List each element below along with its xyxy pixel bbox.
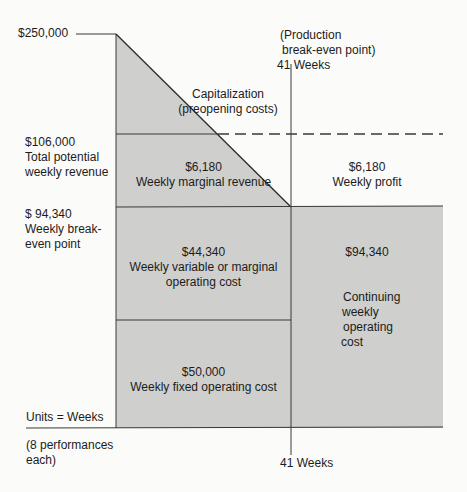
capitalization-label-2: (preopening costs) (150, 102, 306, 117)
weekly-profit-value: $6,180 (291, 160, 443, 175)
variable-cost-value: $44,340 (116, 245, 291, 260)
y-label-250000: $250,000 (18, 26, 68, 41)
continuing-cost-value: $94,340 (291, 245, 443, 260)
y-label-94340: $ 94,340 (25, 207, 72, 222)
performances-label-2: each) (26, 453, 56, 468)
y-label-revenue-1: Total potential (25, 150, 99, 165)
production-label-1: (Production (280, 28, 341, 43)
continuing-cost-label-2: weekly (342, 305, 379, 320)
variable-cost-label-1: Weekly variable or marginal (116, 260, 291, 275)
marginal-revenue-value: $6,180 (116, 160, 291, 175)
y-label-revenue-2: weekly revenue (25, 165, 108, 180)
units-label: Units = Weeks (26, 410, 103, 425)
continuing-cost-label-3: operating (343, 320, 393, 335)
weekly-profit-label: Weekly profit (291, 175, 443, 190)
y-label-106000: $106,000 (25, 135, 75, 150)
marginal-revenue-label: Weekly marginal revenue (116, 175, 291, 190)
production-label-2: break-even point) (282, 43, 375, 58)
production-label-3: 41 Weeks (277, 58, 330, 73)
continuing-cost-label-4: cost (341, 335, 363, 350)
performances-label-1: (8 performances (26, 438, 113, 453)
capitalization-label-1: Capitalization (150, 87, 306, 102)
y-label-breakeven-2: even point (25, 237, 80, 252)
bottom-41-weeks-label: 41 Weeks (280, 456, 333, 471)
fixed-cost-value: $50,000 (116, 365, 291, 380)
continuing-cost-label-1: Continuing (343, 290, 400, 305)
fixed-cost-label: Weekly fixed operating cost (116, 380, 291, 395)
y-label-breakeven-1: Weekly break- (25, 222, 101, 237)
variable-cost-label-2: operating cost (116, 275, 291, 290)
